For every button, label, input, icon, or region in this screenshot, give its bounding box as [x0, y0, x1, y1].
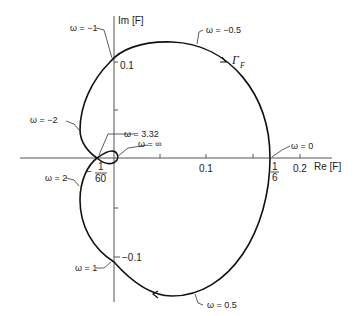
nyquist-curve [80, 42, 270, 296]
y-tick-label--0.1: −0.1 [122, 252, 142, 263]
x-tick-label-0.1: 0.1 [199, 163, 213, 174]
fraction-one-sixth: 1 6 [271, 161, 279, 183]
axes [20, 16, 332, 302]
direction-arrows [153, 57, 226, 298]
label-w-half: ω = 0.5 [207, 300, 237, 310]
curve-label: Γ [231, 53, 240, 67]
svg-text:60: 60 [95, 173, 107, 184]
x-tick-label-0.2: 0.2 [293, 163, 307, 174]
svg-text:6: 6 [272, 172, 278, 183]
nyquist-diagram: Im [F] Re [F] 0.1 0.2 0.1 −0.1 1 6 − 1 6… [0, 0, 358, 316]
y-axis-label: Im [F] [118, 15, 144, 26]
fraction-minus-one-sixtieth: − 1 60 [86, 161, 107, 184]
svg-text:1: 1 [272, 161, 278, 172]
label-w-0: ω = 0 [291, 141, 313, 151]
label-w-neg-1: ω = −1 [70, 23, 98, 33]
label-w-neg-half: ω = −0.5 [206, 25, 241, 35]
curve-label-subscript: F [239, 61, 245, 70]
label-w-1: ω = 1 [75, 263, 97, 273]
y-tick-label-0.1: 0.1 [120, 60, 134, 71]
label-w-2: ω = 2 [45, 173, 67, 183]
x-axis-label: Re [F] [314, 161, 341, 172]
label-w-neg-2: ω = −2 [30, 115, 58, 125]
label-w-3.32: ω = 3.32 [124, 129, 159, 139]
label-w-inf: ω = ∞ [138, 139, 162, 149]
